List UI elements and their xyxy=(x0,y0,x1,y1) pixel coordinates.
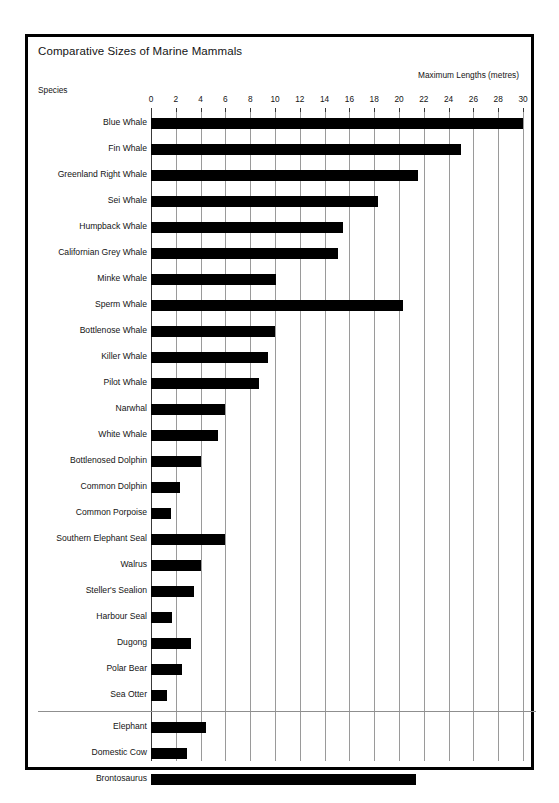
table-row: Walrus xyxy=(151,553,526,579)
bar-label-harbour-seal: Harbour Seal xyxy=(96,611,147,621)
bar-label-brontosaurus: Brontosaurus xyxy=(96,773,147,783)
bar-label-sperm-whale: Sperm Whale xyxy=(95,299,147,309)
x-tick-label-10: 10 xyxy=(270,94,279,104)
bar-label-domestic-cow: Domestic Cow xyxy=(92,747,147,757)
table-row: White Whale xyxy=(151,423,526,449)
table-row: Fin Whale xyxy=(151,137,526,163)
table-row: Bottlenosed Dolphin xyxy=(151,449,526,475)
bar-harbour-seal xyxy=(151,612,172,623)
bar-label-sei-whale: Sei Whale xyxy=(108,195,147,205)
bar-domestic-cow xyxy=(151,748,187,759)
table-row: Brontosaurus xyxy=(151,767,526,793)
x-tick-label-8: 8 xyxy=(248,94,253,104)
bar-southern-elephant-seal xyxy=(151,534,225,545)
bar-steller-s-sealion xyxy=(151,586,194,597)
bar-label-bottlenosed-dolphin: Bottlenosed Dolphin xyxy=(70,455,147,465)
bar-label-steller-s-sealion: Steller's Sealion xyxy=(86,585,147,595)
x-tick-label-30: 30 xyxy=(518,94,527,104)
bar-label-fin-whale: Fin Whale xyxy=(108,143,147,153)
page-title: Comparative Sizes of Marine Mammals xyxy=(38,45,242,57)
bar-sperm-whale xyxy=(151,300,403,311)
table-row: Blue Whale xyxy=(151,111,526,137)
bar-white-whale xyxy=(151,430,218,441)
table-row: Greenland Right Whale xyxy=(151,163,526,189)
plot-area: 024681012141618202224262830 Blue WhaleFi… xyxy=(151,94,526,761)
table-row: Pilot Whale xyxy=(151,371,526,397)
bar-label-narwhal: Narwhal xyxy=(115,403,147,413)
table-row: Sea Otter xyxy=(151,683,526,709)
bar-blue-whale xyxy=(151,118,523,129)
x-tick-label-14: 14 xyxy=(320,94,329,104)
bar-polar-bear xyxy=(151,664,182,675)
table-row: Common Porpoise xyxy=(151,501,526,527)
x-tick-label-2: 2 xyxy=(173,94,178,104)
table-row: Common Dolphin xyxy=(151,475,526,501)
bar-common-porpoise xyxy=(151,508,171,519)
bar-label-californian-grey-whale: Californian Grey Whale xyxy=(58,247,147,257)
x-tick-label-0: 0 xyxy=(149,94,154,104)
bar-label-blue-whale: Blue Whale xyxy=(103,117,147,127)
bar-bottlenosed-dolphin xyxy=(151,456,201,467)
x-axis-title: Maximum Lengths (metres) xyxy=(418,70,519,80)
x-tick-label-22: 22 xyxy=(419,94,428,104)
table-row: Californian Grey Whale xyxy=(151,241,526,267)
x-tick-label-26: 26 xyxy=(469,94,478,104)
table-row: Bottlenose Whale xyxy=(151,319,526,345)
bar-killer-whale xyxy=(151,352,268,363)
bar-label-dugong: Dugong xyxy=(117,637,147,647)
bar-elephant xyxy=(151,722,206,733)
bar-label-bottlenose-whale: Bottlenose Whale xyxy=(80,325,147,335)
bar-sei-whale xyxy=(151,196,378,207)
bar-walrus xyxy=(151,560,201,571)
table-row: Narwhal xyxy=(151,397,526,423)
bar-rows: Blue WhaleFin WhaleGreenland Right Whale… xyxy=(151,111,526,761)
bar-narwhal xyxy=(151,404,225,415)
chart-page: Comparative Sizes of Marine Mammals Maxi… xyxy=(0,0,559,803)
bar-common-dolphin xyxy=(151,482,180,493)
bar-minke-whale xyxy=(151,274,276,285)
x-tick-label-4: 4 xyxy=(198,94,203,104)
x-tick-label-24: 24 xyxy=(444,94,453,104)
table-row: Sei Whale xyxy=(151,189,526,215)
bar-dugong xyxy=(151,638,191,649)
table-row: Southern Elephant Seal xyxy=(151,527,526,553)
bar-humpback-whale xyxy=(151,222,343,233)
x-tick-label-12: 12 xyxy=(295,94,304,104)
table-row: Elephant xyxy=(151,715,526,741)
bar-label-white-whale: White Whale xyxy=(98,429,147,439)
bar-label-killer-whale: Killer Whale xyxy=(101,351,147,361)
bar-label-common-dolphin: Common Dolphin xyxy=(81,481,147,491)
table-row: Humpback Whale xyxy=(151,215,526,241)
x-tick-label-28: 28 xyxy=(494,94,503,104)
bar-label-sea-otter: Sea Otter xyxy=(110,689,147,699)
x-tick-label-16: 16 xyxy=(345,94,354,104)
bar-label-humpback-whale: Humpback Whale xyxy=(79,221,147,231)
bar-californian-grey-whale xyxy=(151,248,338,259)
x-tick-label-20: 20 xyxy=(394,94,403,104)
table-row: Dugong xyxy=(151,631,526,657)
table-row: Harbour Seal xyxy=(151,605,526,631)
bar-bottlenose-whale xyxy=(151,326,275,337)
table-row: Polar Bear xyxy=(151,657,526,683)
table-row: Domestic Cow xyxy=(151,741,526,767)
chart-frame: Comparative Sizes of Marine Mammals Maxi… xyxy=(25,34,534,770)
table-row: Sperm Whale xyxy=(151,293,526,319)
bar-sea-otter xyxy=(151,690,167,701)
y-axis-title: Species xyxy=(38,85,68,95)
bar-label-elephant: Elephant xyxy=(113,721,147,731)
table-row: Killer Whale xyxy=(151,345,526,371)
bar-brontosaurus xyxy=(151,774,416,785)
table-row: Steller's Sealion xyxy=(151,579,526,605)
bar-fin-whale xyxy=(151,144,461,155)
bar-label-common-porpoise: Common Porpoise xyxy=(76,507,147,517)
bar-label-minke-whale: Minke Whale xyxy=(97,273,147,283)
x-tick-label-6: 6 xyxy=(223,94,228,104)
table-row: Minke Whale xyxy=(151,267,526,293)
bar-label-walrus: Walrus xyxy=(121,559,147,569)
bar-greenland-right-whale xyxy=(151,170,418,181)
bar-label-polar-bear: Polar Bear xyxy=(106,663,147,673)
bar-label-greenland-right-whale: Greenland Right Whale xyxy=(58,169,147,179)
bar-pilot-whale xyxy=(151,378,259,389)
bar-label-pilot-whale: Pilot Whale xyxy=(104,377,147,387)
x-tick-label-18: 18 xyxy=(370,94,379,104)
